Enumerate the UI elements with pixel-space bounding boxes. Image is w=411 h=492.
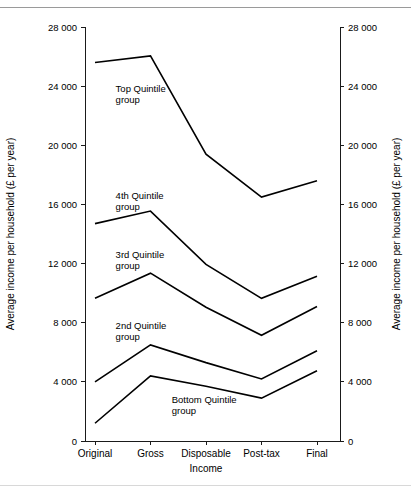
y-tick-label-right: 8 000: [348, 317, 372, 328]
y-axis-title-left: Average income per household (£ per year…: [5, 138, 16, 331]
x-tick-label: Original: [78, 448, 112, 459]
y-tick-label-left: 16 000: [48, 199, 77, 210]
y-tick-label-left: 12 000: [48, 258, 77, 269]
series-label: Bottom Quintile: [172, 394, 237, 405]
series-label: Top Quintile: [116, 83, 166, 94]
series-label: group: [116, 331, 140, 342]
y-tick-label-right: 24 000: [348, 81, 377, 92]
y-tick-label-right: 20 000: [348, 140, 377, 151]
y-tick-label-right: 16 000: [348, 199, 377, 210]
series-label: group: [116, 201, 140, 212]
y-tick-label-left: 20 000: [48, 140, 77, 151]
series-layer: [95, 56, 317, 423]
y-tick-label-left: 8 000: [53, 317, 77, 328]
y-tick-label-left: 0: [72, 436, 77, 447]
series-line: [95, 56, 317, 197]
x-tick-label: Gross: [137, 448, 164, 459]
series-label: 3rd Quintile: [116, 249, 165, 260]
y-tick-label-right: 0: [348, 436, 353, 447]
series-label: group: [116, 94, 140, 105]
series-label: 4th Quintile: [116, 190, 164, 201]
x-axis-title: Income: [190, 463, 223, 474]
y-axis-title-right: Average income per household (£ per year…: [391, 138, 402, 331]
x-tick-label: Disposable: [181, 448, 231, 459]
series-line: [95, 345, 317, 382]
x-tick-label: Post-tax: [243, 448, 280, 459]
y-tick-label-left: 28 000: [48, 22, 77, 33]
chart-figure: 004 0004 0008 0008 00012 00012 00016 000…: [0, 0, 411, 492]
y-tick-label-right: 28 000: [348, 22, 377, 33]
y-tick-label-left: 4 000: [53, 376, 77, 387]
y-tick-label-right: 4 000: [348, 376, 372, 387]
y-tick-label-right: 12 000: [348, 258, 377, 269]
series-label: group: [172, 405, 196, 416]
x-tick-label: Final: [306, 448, 328, 459]
line-chart: 004 0004 0008 0008 00012 00012 00016 000…: [0, 0, 411, 492]
series-label: group: [116, 260, 140, 271]
y-tick-label-left: 24 000: [48, 81, 77, 92]
series-label: 2nd Quintile: [116, 320, 167, 331]
